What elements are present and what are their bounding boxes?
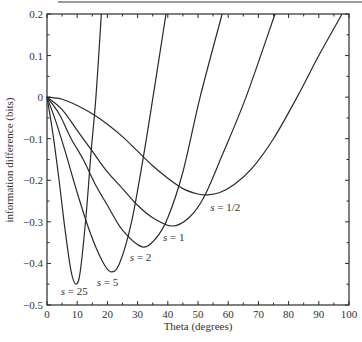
curve-s-2 [47, 14, 222, 247]
x-tick-label: 40 [162, 308, 174, 320]
y-tick-label: −0.1 [23, 133, 43, 145]
curve-s-1-2 [47, 14, 342, 195]
curve-label: s = 25 [61, 285, 88, 297]
y-tick-label: −0.5 [23, 299, 43, 311]
x-tick-label: 20 [102, 308, 114, 320]
x-tick-label: 0 [44, 308, 50, 320]
x-tick-label: 90 [313, 308, 325, 320]
curve-s-25 [47, 14, 101, 284]
x-tick-label: 30 [132, 308, 144, 320]
curve-label: s = 1 [163, 231, 185, 243]
curve-label: s = 2 [130, 251, 152, 263]
y-tick-label: 0.2 [29, 8, 43, 20]
curve-s-5 [47, 14, 166, 272]
y-tick-label: −0.2 [23, 174, 43, 186]
curve-label: s = 1/2 [210, 201, 240, 213]
y-tick-label: 0 [38, 91, 44, 103]
x-tick-label: 50 [193, 308, 205, 320]
y-tick-label: −0.4 [23, 257, 43, 269]
x-tick-label: 80 [283, 308, 295, 320]
curve-label: s = 5 [97, 276, 119, 288]
x-tick-label: 60 [223, 308, 235, 320]
curves-group [47, 14, 342, 284]
x-tick-label: 100 [341, 308, 358, 320]
y-axis-title: information difference (bits) [3, 97, 16, 222]
x-tick-label: 10 [72, 308, 84, 320]
y-tick-label: 0.1 [29, 50, 43, 62]
x-axis-title: Theta (degrees) [164, 320, 233, 333]
line-chart: 01020304050607080901000.20.10−0.1−0.2−0.… [0, 0, 362, 342]
x-tick-label: 70 [253, 308, 265, 320]
plot-frame [47, 14, 349, 305]
y-tick-label: −0.3 [23, 216, 43, 228]
ticks-group: 01020304050607080901000.20.10−0.1−0.2−0.… [23, 8, 358, 320]
